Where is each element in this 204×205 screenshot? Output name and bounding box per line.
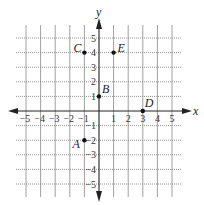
y-tick-label: 1 (91, 91, 96, 102)
y-tick-label: −2 (85, 135, 96, 146)
point-label-c: C (73, 41, 82, 55)
x-tick-label: 5 (170, 113, 175, 124)
x-tick-label: −5 (20, 113, 31, 124)
y-tick-label: 4 (91, 47, 96, 58)
axes: xy (8, 5, 199, 202)
x-tick-label: −4 (34, 113, 45, 124)
y-tick-label: 5 (91, 33, 96, 44)
x-axis-label: x (192, 104, 199, 118)
x-tick-label: −3 (49, 113, 60, 124)
y-tick-label: −5 (85, 179, 96, 190)
y-tick-label: 3 (91, 62, 96, 73)
y-axis-arrow-down-icon (96, 191, 102, 202)
point-label-e: E (117, 41, 126, 55)
x-tick-label: 1 (111, 113, 116, 124)
x-axis-arrow-left-icon (8, 108, 18, 114)
y-tick-label: −4 (85, 164, 96, 175)
points: ABCDE (71, 41, 153, 152)
point-b (97, 94, 101, 98)
point-a (82, 138, 86, 142)
point-label-b: B (102, 82, 110, 96)
y-tick-label: −3 (85, 149, 96, 160)
y-axis-label: y (95, 5, 102, 19)
coordinate-plane: xy −5−4−3−2−112345−5−4−3−2−112345 ABCDE (0, 0, 204, 205)
x-tick-label: 4 (155, 113, 160, 124)
point-label-d: D (144, 96, 154, 110)
x-axis-arrow-right-icon (182, 108, 192, 114)
point-e (111, 50, 115, 54)
point-c (82, 50, 86, 54)
x-tick-label: 2 (126, 113, 131, 124)
x-tick-label: 3 (140, 113, 145, 124)
y-tick-label: 2 (91, 76, 96, 87)
y-axis-arrow-up-icon (96, 18, 102, 29)
x-tick-label: −2 (63, 113, 74, 124)
y-tick-label: −1 (85, 120, 96, 131)
point-label-a: A (71, 137, 80, 151)
